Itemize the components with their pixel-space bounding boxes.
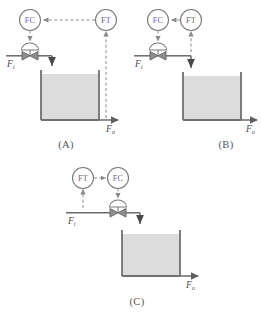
outlet-flow-label-c: Fo xyxy=(185,280,195,291)
valve-actuator-a xyxy=(22,43,39,50)
panel-caption-a: (A) xyxy=(36,139,96,150)
valve-actuator-b xyxy=(150,43,167,50)
inlet-flow-label-b: Fi xyxy=(134,59,143,70)
controller-bubble-c: FC xyxy=(108,168,129,189)
transmitter-bubble-c: FT xyxy=(73,168,94,189)
inlet-flow-label-a: Fi xyxy=(6,59,15,70)
controller-tag-c: FC xyxy=(113,174,124,183)
panel-b: FC FT Fi xyxy=(130,0,261,150)
inlet-flow-label-c: Fi xyxy=(67,216,76,227)
transmitter-tag-c: FT xyxy=(78,174,88,183)
controller-bubble-b: FC xyxy=(148,10,169,31)
transmitter-bubble-b: FT xyxy=(181,10,202,31)
panel-a: FC FT Fi xyxy=(0,0,131,150)
controller-bubble-a: FC xyxy=(20,10,41,31)
outlet-flow-label-b: Fo xyxy=(245,124,255,135)
valve-actuator-c xyxy=(110,200,127,207)
transmitter-tag-b: FT xyxy=(186,16,196,25)
tank-b xyxy=(183,72,241,120)
panel-caption-c: (C) xyxy=(107,296,167,307)
controller-tag-a: FC xyxy=(25,16,36,25)
panel-c: FT FC Fi xyxy=(62,160,207,305)
controller-tag-b: FC xyxy=(153,16,164,25)
transmitter-bubble-a: FT xyxy=(96,10,117,31)
transmitter-tag-a: FT xyxy=(101,16,111,25)
tank-c xyxy=(122,230,180,276)
panel-caption-b: (B) xyxy=(196,139,256,150)
outlet-flow-label-a: Fo xyxy=(105,124,115,135)
tank-a xyxy=(41,70,99,120)
